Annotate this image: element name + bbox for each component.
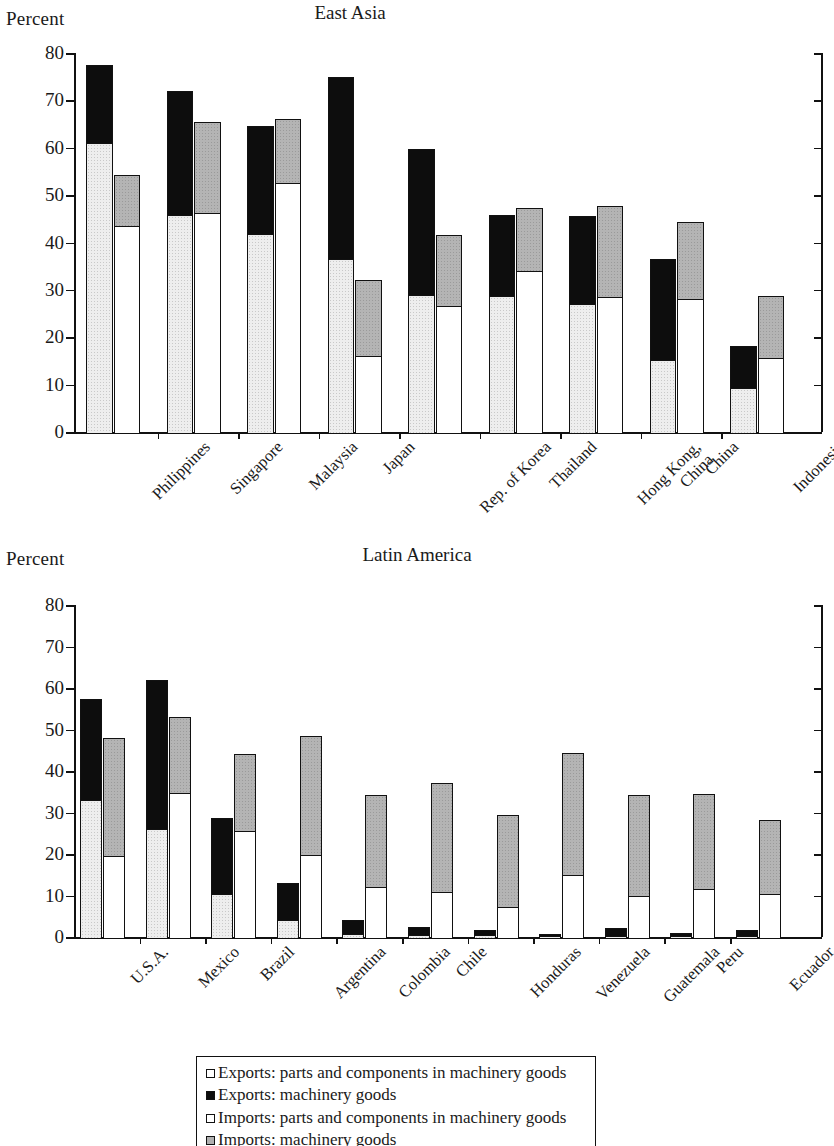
- bar-segment-divider: [475, 935, 495, 936]
- bar-segment-parts: [629, 897, 649, 938]
- bar-segment-parts: [366, 888, 386, 938]
- x-axis-category-tick: [336, 938, 338, 944]
- y-axis-tick-label: 80: [6, 42, 64, 64]
- y-axis-tick-right: [814, 688, 822, 690]
- y-axis-tick-right: [814, 896, 822, 898]
- y-axis-tick-right: [814, 53, 822, 55]
- bar-segment-parts: [475, 936, 495, 938]
- x-axis-category-label: Argentina: [330, 943, 389, 1002]
- x-axis-category-label: Honduras: [526, 943, 584, 1001]
- x-axis-category-label: Thailand: [546, 438, 600, 492]
- bar-segment-parts: [115, 227, 140, 433]
- x-axis-category-label: Japan: [379, 438, 418, 477]
- legend-swatch-exports-machinery: [206, 1091, 215, 1100]
- bar-segment-machinery: [81, 700, 101, 801]
- chart-page: Percent East Asia 01020304050607080Phili…: [0, 0, 834, 1146]
- panel-title: East Asia: [0, 2, 700, 24]
- bar-segment-parts: [278, 921, 298, 938]
- y-axis-tick-label: 40: [6, 760, 64, 782]
- bar-segment-machinery: [248, 127, 273, 235]
- bar-imports-Japan: [355, 280, 382, 433]
- bar-segment-parts: [248, 235, 273, 433]
- x-axis-category-tick: [641, 433, 643, 439]
- x-axis-category-tick: [721, 433, 723, 439]
- bar-segment-parts: [195, 214, 220, 433]
- x-axis-category-tick: [480, 433, 482, 439]
- x-axis-category-tick: [238, 433, 240, 439]
- bar-segment-parts: [540, 937, 560, 938]
- y-axis-tick-right: [814, 813, 822, 815]
- legend-label-exports-parts: Exports: parts and components in machine…: [218, 1062, 566, 1084]
- x-axis-category-label: Ecuador: [786, 943, 834, 994]
- y-axis-tick: [66, 53, 74, 55]
- bar-segment-machinery: [170, 718, 190, 794]
- bar-segment-parts: [760, 895, 780, 938]
- bar-imports-Philippines: [114, 175, 141, 433]
- bar-imports-Mexico: [169, 717, 191, 938]
- bar-segment-parts: [570, 305, 595, 433]
- bar-imports-Peru: [693, 794, 715, 938]
- x-axis-category-label: Indonesia: [789, 438, 834, 496]
- bar-segment-divider: [498, 907, 518, 908]
- bar-segment-divider: [409, 295, 434, 296]
- x-axis-category-tick: [599, 938, 601, 944]
- bar-segment-parts: [87, 144, 112, 433]
- bar-segment-divider: [759, 358, 784, 359]
- bar-imports-Rep--of-Korea: [436, 235, 463, 433]
- y-axis-tick: [66, 100, 74, 102]
- bar-segment-divider: [366, 887, 386, 888]
- bar-imports-Singapore: [194, 122, 221, 433]
- bar-segment-parts: [409, 296, 434, 433]
- bar-segment-parts: [104, 857, 124, 938]
- bar-segment-machinery: [104, 739, 124, 857]
- bar-segment-parts: [81, 801, 101, 938]
- y-axis-tick-label: 50: [6, 719, 64, 741]
- y-axis-tick: [66, 647, 74, 649]
- legend-swatch-imports-parts: [206, 1114, 215, 1123]
- bar-segment-divider: [570, 304, 595, 305]
- y-axis-tick-right: [814, 290, 822, 292]
- y-axis-tick-label: 80: [6, 594, 64, 616]
- bar-segment-machinery: [437, 236, 462, 308]
- y-axis-tick-label: 50: [6, 184, 64, 206]
- y-axis-tick: [66, 605, 74, 607]
- bar-segment-machinery: [570, 217, 595, 305]
- bar-segment-divider: [409, 935, 429, 936]
- bar-segment-divider: [671, 936, 691, 937]
- bar-exports-Mexico: [146, 680, 168, 938]
- y-axis-tick-right: [814, 647, 822, 649]
- x-axis-category-label: Mexico: [194, 943, 242, 991]
- bar-imports-Colombia: [365, 795, 387, 938]
- bar-segment-machinery: [356, 281, 381, 357]
- x-axis-category-tick: [399, 433, 401, 439]
- bar-segment-divider: [540, 936, 560, 937]
- bar-segment-machinery: [276, 120, 301, 184]
- bar-segment-parts: [147, 830, 167, 938]
- bar-segment-divider: [432, 892, 452, 893]
- bar-segment-divider: [329, 259, 354, 260]
- bar-imports-Brazil: [234, 754, 256, 938]
- bar-segment-divider: [235, 831, 255, 832]
- legend-item-exports-parts: Exports: parts and components in machine…: [206, 1062, 585, 1084]
- bar-segment-machinery: [490, 216, 515, 297]
- x-axis-category-label: China: [702, 438, 742, 478]
- bar-segment-machinery: [694, 795, 714, 890]
- x-axis-category-label: Malaysia: [305, 438, 360, 493]
- bar-imports-Honduras: [497, 815, 519, 938]
- bar-exports-Thailand: [489, 215, 516, 433]
- y-axis-tick: [66, 290, 74, 292]
- x-axis-category-tick: [664, 938, 666, 944]
- bar-exports-Peru: [670, 933, 692, 938]
- y-axis-tick-label: 10: [6, 374, 64, 396]
- bar-segment-machinery: [343, 921, 363, 935]
- bar-exports-Japan: [328, 77, 355, 433]
- bar-segment-parts: [168, 216, 193, 433]
- y-axis-tick-right: [814, 148, 822, 150]
- bar-segment-divider: [170, 793, 190, 794]
- bar-exports-Malaysia: [247, 126, 274, 433]
- y-axis-tick: [66, 337, 74, 339]
- bar-segment-parts: [276, 184, 301, 433]
- x-axis-category-label: Peru: [713, 943, 747, 977]
- bar-segment-parts: [517, 272, 542, 433]
- bar-segment-machinery: [731, 347, 756, 390]
